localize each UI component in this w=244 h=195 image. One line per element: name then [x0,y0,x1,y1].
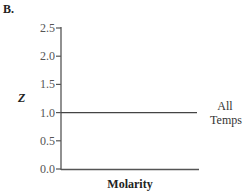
y-tick-label: 2.0 [40,49,55,63]
series-label-line2: Temps [210,113,242,127]
y-tick-label: 1.5 [40,77,55,91]
series-label-line1: All [217,99,233,113]
y-axis-ticks: 0.00.51.01.52.02.5 [40,21,61,176]
y-tick-label: 0.0 [40,162,55,176]
y-tick-label: 2.5 [40,21,55,35]
x-axis-title: Molarity [107,177,152,191]
y-tick-label: 1.0 [40,106,55,120]
chart: 0.00.51.01.52.02.5 Z Molarity All Temps [0,0,244,195]
y-tick-label: 0.5 [40,134,55,148]
y-axis-title: Z [17,91,26,105]
